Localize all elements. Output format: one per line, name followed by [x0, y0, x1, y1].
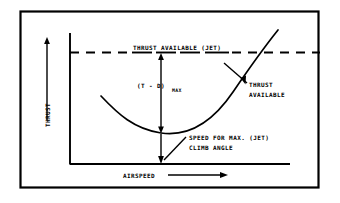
figure-container: THRUST THRUST AVAILABLE (JET) (T - D)	[0, 0, 340, 203]
best-climb-speed-label-line2: CLIMB ANGLE	[189, 144, 233, 151]
excess-thrust-label-subscript: MAX	[172, 88, 182, 93]
x-axis-label: AIRSPEED	[123, 172, 155, 179]
thrust-available-jet-label: THRUST AVAILABLE (JET)	[133, 44, 221, 51]
thrust-available-curve-label-line1: THRUST	[249, 81, 273, 88]
thrust-available-curve-label-line2: AVAILABLE	[249, 91, 285, 98]
thrust-vs-airspeed-diagram: THRUST THRUST AVAILABLE (JET) (T - D)	[0, 0, 340, 203]
best-climb-speed-label-line1: SPEED FOR MAX. (JET)	[189, 134, 269, 141]
figure-border	[21, 12, 319, 188]
excess-thrust-label: (T - D)	[137, 82, 165, 89]
y-axis-label: THRUST	[44, 103, 51, 127]
